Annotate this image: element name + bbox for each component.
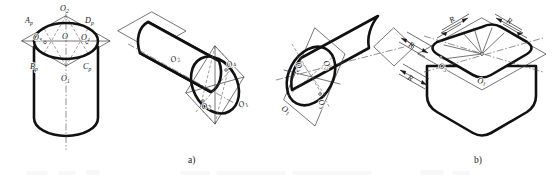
label-o3-1: O3 xyxy=(33,33,42,43)
label-o1-3: O1 xyxy=(280,104,293,117)
center-point-o1-4 xyxy=(481,53,484,56)
scan-artifact-1 xyxy=(26,171,48,175)
scan-artifact-4 xyxy=(180,171,210,175)
center-point-o3-1 xyxy=(44,41,47,44)
panel-2-horizontal-cylinder: O2 O4 O3 O1 xyxy=(118,12,249,124)
label-o-1: O xyxy=(62,32,68,41)
scan-artifact-8 xyxy=(452,171,470,175)
technical-drawing-svg: O2 Ap Dp O3 O O4 Bp Cp O1 xyxy=(0,0,554,179)
panel-3-horizontal-cylinder: O4 O2 O3 O1 xyxy=(276,16,414,126)
scan-artifact-6 xyxy=(292,171,372,175)
scan-artifact-2 xyxy=(58,171,76,175)
panel-4-rounded-prism: O3 O1 R R R R xyxy=(399,14,546,136)
label-o2-1: O2 xyxy=(60,4,69,14)
center-point-o4-2 xyxy=(225,69,228,72)
dim-label-r-top-left: R xyxy=(447,14,457,25)
center-point-o3-3 xyxy=(319,93,322,96)
scan-artifact-5 xyxy=(216,171,286,175)
scan-artifact-3 xyxy=(86,170,100,175)
label-dp-1: Dp xyxy=(84,16,94,26)
panel-1-vertical-cylinder: O2 Ap Dp O3 O O4 Bp Cp O1 xyxy=(22,4,110,150)
dim-arrow-4g xyxy=(400,70,406,75)
center-point-o3-4 xyxy=(440,56,442,58)
dim-arrow-4b xyxy=(462,18,468,23)
caption-b: b) xyxy=(474,155,482,166)
dim-arrow-4c xyxy=(496,18,502,23)
caption-a: a) xyxy=(188,155,195,166)
label-ap-1: Ap xyxy=(24,16,33,26)
drawing-sheet: O2 Ap Dp O3 O O4 Bp Cp O1 xyxy=(0,0,554,179)
scan-artifact-7 xyxy=(420,170,444,175)
label-o4-1: O4 xyxy=(81,33,90,43)
dim-arrow-4e xyxy=(401,38,407,43)
